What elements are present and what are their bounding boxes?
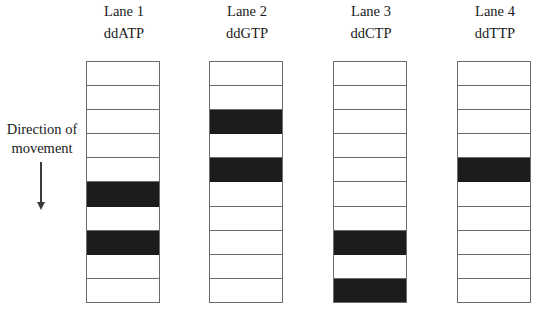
gel-slot xyxy=(334,134,406,158)
lane-1-subtitle: ddATP xyxy=(86,22,162,44)
gel-slot xyxy=(87,207,159,231)
gel-slot xyxy=(210,134,282,158)
gel-slot xyxy=(334,86,406,110)
lane-3-gel xyxy=(333,61,407,303)
gel-slot xyxy=(458,134,530,158)
gel-slot xyxy=(87,134,159,158)
direction-of-movement-label: Direction of movement xyxy=(0,120,84,158)
dna-band xyxy=(458,158,530,182)
gel-slot xyxy=(334,207,406,231)
gel-slot xyxy=(210,86,282,110)
lane-1-gel xyxy=(86,61,160,303)
gel-slot xyxy=(458,62,530,86)
lane-2-subtitle: ddGTP xyxy=(209,22,285,44)
lane-4-gel xyxy=(457,61,531,303)
sequencing-gel-figure: Direction of movement Lane 1 ddATP Lane … xyxy=(0,0,541,314)
lane-2-title: Lane 2 xyxy=(209,0,285,22)
gel-slot xyxy=(458,86,530,110)
gel-slot xyxy=(210,231,282,255)
dna-band xyxy=(210,110,282,134)
lane-3-subtitle: ddCTP xyxy=(333,22,409,44)
lane-1-header: Lane 1 ddATP xyxy=(86,0,162,44)
direction-label-line-1: Direction of xyxy=(0,120,84,139)
lane-column-3: Lane 3 ddCTP xyxy=(333,0,409,44)
gel-slot xyxy=(458,231,530,255)
direction-label-line-2: movement xyxy=(0,139,84,158)
gel-slot xyxy=(87,110,159,134)
gel-slot xyxy=(87,86,159,110)
lane-2-gel xyxy=(209,61,283,303)
lane-3-title: Lane 3 xyxy=(333,0,409,22)
lane-column-1: Lane 1 ddATP xyxy=(86,0,162,44)
lane-column-2: Lane 2 ddGTP xyxy=(209,0,285,44)
gel-slot xyxy=(87,279,159,302)
gel-slot xyxy=(458,255,530,279)
gel-slot xyxy=(458,279,530,302)
lane-4-header: Lane 4 ddTTP xyxy=(457,0,533,44)
gel-slot xyxy=(87,255,159,279)
gel-slot xyxy=(210,182,282,206)
gel-slot xyxy=(210,255,282,279)
lane-1-title: Lane 1 xyxy=(86,0,162,22)
lane-3-header: Lane 3 ddCTP xyxy=(333,0,409,44)
gel-slot xyxy=(334,62,406,86)
gel-slot xyxy=(458,182,530,206)
gel-slot xyxy=(210,62,282,86)
dna-band xyxy=(87,182,159,206)
gel-slot xyxy=(334,110,406,134)
lane-4-title: Lane 4 xyxy=(457,0,533,22)
gel-slot xyxy=(458,207,530,231)
gel-slot xyxy=(334,158,406,182)
gel-slot xyxy=(458,110,530,134)
dna-band xyxy=(210,158,282,182)
gel-slot xyxy=(210,207,282,231)
gel-slot xyxy=(87,158,159,182)
lane-2-header: Lane 2 ddGTP xyxy=(209,0,285,44)
lane-4-subtitle: ddTTP xyxy=(457,22,533,44)
dna-band xyxy=(334,279,406,302)
down-arrow-icon xyxy=(40,162,42,204)
dna-band xyxy=(87,231,159,255)
gel-slot xyxy=(334,182,406,206)
gel-slot xyxy=(87,62,159,86)
gel-slot xyxy=(210,279,282,302)
dna-band xyxy=(334,231,406,255)
lane-column-4: Lane 4 ddTTP xyxy=(457,0,533,44)
gel-slot xyxy=(334,255,406,279)
